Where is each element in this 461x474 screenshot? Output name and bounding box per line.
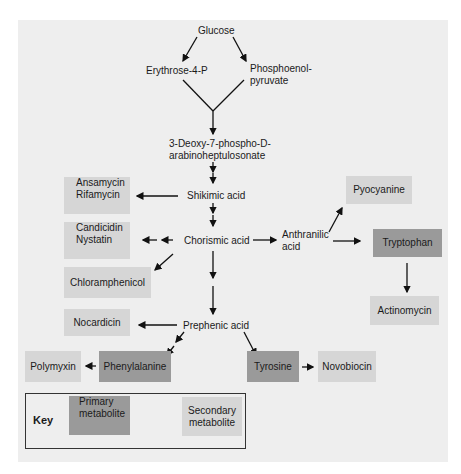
node-shikimic-acid: Shikimic acid — [187, 190, 245, 202]
node-nocardicin: Nocardicin — [64, 309, 130, 336]
node-actinomycin: Actinomycin — [370, 296, 439, 325]
candicidin-label: Candicidin — [76, 222, 123, 234]
rifamycin-label: Rifamycin — [76, 189, 120, 201]
key-primary-line1: Primary — [79, 396, 113, 408]
node-novobiocin: Novobiocin — [318, 351, 376, 382]
node-candicidin-nystatin: Candicidin Nystatin — [64, 222, 130, 259]
ansamycin-label: Ansamycin — [76, 177, 125, 189]
node-erythrose-4-p: Erythrose-4-P — [146, 65, 208, 77]
node-anthranilic-acid-line1: Anthranilic — [282, 229, 329, 241]
node-phosphoenolpyruvate-line2: pyruvate — [250, 75, 288, 87]
node-chorismic-acid: Chorismic acid — [184, 235, 250, 247]
key-primary-line2: metabolite — [79, 408, 125, 420]
nystatin-label: Nystatin — [76, 234, 112, 246]
node-phosphoenolpyruvate-line1: Phosphoenol- — [250, 63, 312, 75]
key-secondary-line2: metabolite — [189, 417, 235, 429]
node-pyocyanine: Pyocyanine — [346, 176, 412, 204]
node-glucose: Glucose — [198, 25, 235, 37]
key-title: Key — [33, 414, 53, 426]
key-secondary-line1: Secondary — [188, 405, 236, 417]
key-secondary-metabolite: Secondary metabolite — [182, 397, 242, 436]
node-polymyxin: Polymyxin — [25, 351, 81, 382]
node-ansamycin-rifamycin: Ansamycin Rifamycin — [64, 177, 130, 214]
node-dahp-line2: arabinoheptulosonate — [169, 150, 265, 162]
node-tyrosine: Tyrosine — [247, 351, 299, 382]
node-tryptophan: Tryptophan — [373, 229, 442, 257]
node-phenylalanine: Phenylalanine — [99, 351, 171, 382]
legend-key: Key Primary metabolite Secondary metabol… — [25, 393, 246, 449]
node-prephenic-acid: Prephenic acid — [183, 320, 249, 332]
node-dahp-line1: 3-Deoxy-7-phospho-D- — [169, 138, 271, 150]
key-primary-metabolite: Primary metabolite — [69, 396, 130, 435]
node-chloramphenicol: Chloramphenicol — [64, 267, 151, 298]
node-anthranilic-acid-line2: acid — [282, 241, 300, 253]
